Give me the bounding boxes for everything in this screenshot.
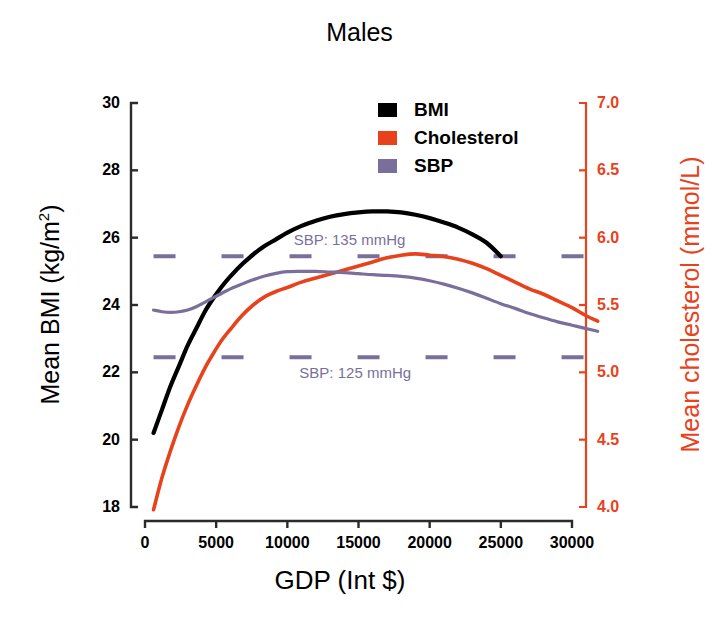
- y-axis-left-tick-label: 20: [0, 431, 120, 449]
- chart-figure: Males Mean BMI (kg/m2) Mean cholesterol …: [0, 0, 719, 629]
- y-axis-left-tick-label: 26: [0, 229, 120, 247]
- sbp-annotation-label: SBP: 125 mmHg: [299, 364, 411, 381]
- legend-item-sbp[interactable]: SBP: [378, 152, 519, 180]
- y-axis-left-tick-label: 24: [0, 296, 120, 314]
- y-axis-right-tick-label: 4.5: [597, 431, 619, 449]
- series-line-sbp: [154, 271, 598, 331]
- legend-item-cholesterol[interactable]: Cholesterol: [378, 124, 519, 152]
- y-axis-right-tick-label: 5.0: [597, 363, 619, 381]
- chart-title: Males: [0, 18, 719, 47]
- legend-label: BMI: [414, 99, 449, 121]
- x-axis-label: GDP (Int $): [80, 565, 600, 596]
- x-axis-tick-label: 30000: [512, 534, 632, 552]
- y-axis-right-label: Mean cholesterol (mmol/L): [676, 105, 705, 505]
- y-axis-left-tick-label: 28: [0, 161, 120, 179]
- y-axis-left-tick-label: 30: [0, 94, 120, 112]
- y-axis-right-tick-label: 6.5: [597, 161, 619, 179]
- legend-swatch-icon: [378, 103, 397, 117]
- y-axis-left-tick-label: 18: [0, 498, 120, 516]
- chart-legend: BMICholesterolSBP: [378, 96, 519, 180]
- y-axis-left-label-sup: 2: [35, 213, 52, 221]
- y-axis-right-tick-label: 6.0: [597, 229, 619, 247]
- legend-swatch-icon: [378, 159, 397, 173]
- y-axis-right-tick-label: 7.0: [597, 94, 619, 112]
- legend-label: SBP: [414, 155, 453, 177]
- legend-swatch-icon: [378, 131, 397, 145]
- legend-item-bmi[interactable]: BMI: [378, 96, 519, 124]
- sbp-annotation-label: SBP: 135 mmHg: [294, 231, 406, 248]
- y-axis-left-label-suffix: ): [36, 204, 64, 212]
- y-axis-left-tick-label: 22: [0, 363, 120, 381]
- legend-label: Cholesterol: [414, 127, 519, 149]
- y-axis-right-tick-label: 4.0: [597, 498, 619, 516]
- y-axis-right-tick-label: 5.5: [597, 296, 619, 314]
